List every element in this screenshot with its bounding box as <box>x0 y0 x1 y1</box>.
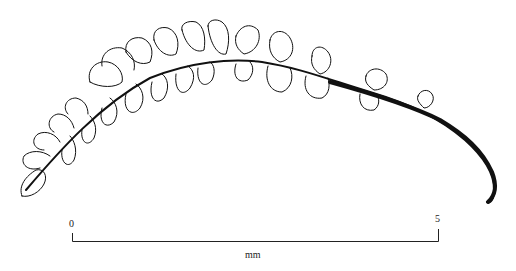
scale-bar <box>73 229 439 242</box>
scale-start-label: 0 <box>69 219 74 229</box>
frond-rachis <box>26 61 494 203</box>
figure: 0 5 mm <box>0 0 516 271</box>
scale-unit-label: mm <box>245 250 261 260</box>
fern-frond-drawing <box>0 0 516 271</box>
frond-stipe-thick <box>330 82 495 202</box>
scale-end-label: 5 <box>435 214 440 224</box>
